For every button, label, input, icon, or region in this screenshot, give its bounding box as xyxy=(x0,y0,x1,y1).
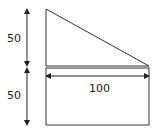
triangle-shape xyxy=(46,9,149,66)
width-label: 100 xyxy=(89,82,110,95)
upper-height-label: 50 xyxy=(7,32,21,45)
rectangle-shape xyxy=(46,68,149,125)
composite-shape-diagram xyxy=(0,0,154,130)
lower-height-label: 50 xyxy=(7,89,21,102)
